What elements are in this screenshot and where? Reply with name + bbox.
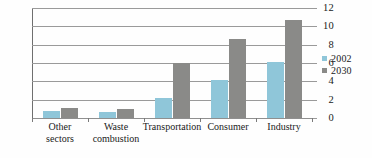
bar-group <box>144 8 200 118</box>
bar-2002 <box>211 80 228 118</box>
legend: 2002 2030 <box>322 53 352 77</box>
y-axis-tick-label: 10 <box>323 21 334 32</box>
bar-2002 <box>43 111 60 118</box>
y-axis-tick-mark <box>312 26 317 27</box>
y-axis-tick-mark <box>312 45 317 46</box>
legend-item-2002: 2002 <box>322 53 352 64</box>
bar-2030 <box>61 108 78 118</box>
bar-2030 <box>285 20 302 118</box>
legend-label-2030: 2030 <box>331 66 352 76</box>
bar-group <box>88 8 144 118</box>
bar-2030 <box>173 63 190 118</box>
bar-2002 <box>155 98 172 118</box>
bar-2002 <box>99 112 116 118</box>
y-axis-tick-mark <box>312 8 317 9</box>
x-axis-category-label: Industry <box>242 121 326 133</box>
y-axis-tick-label: 2 <box>329 94 334 105</box>
y-axis-tick-mark <box>312 100 317 101</box>
y-axis-tick-label: 0 <box>329 113 334 124</box>
bar-2030 <box>229 39 246 118</box>
y-axis-tick-mark <box>312 81 317 82</box>
y-axis-tick-label: 12 <box>323 3 334 14</box>
bars-layer <box>32 8 312 118</box>
gridline <box>32 118 312 119</box>
legend-label-2002: 2002 <box>331 54 352 64</box>
bar-group <box>32 8 88 118</box>
bar-group <box>200 8 256 118</box>
bar-2030 <box>117 109 134 118</box>
bar-group <box>256 8 312 118</box>
y-axis-tick-label: 8 <box>329 39 334 50</box>
legend-swatch-icon-2030 <box>322 68 327 73</box>
bar-chart: 024681012 Other sectorsWaste combustionT… <box>0 0 372 158</box>
plot-area <box>32 8 312 118</box>
legend-item-2030: 2030 <box>322 65 352 76</box>
y-axis-tick-label: 4 <box>329 76 334 87</box>
legend-swatch-icon-2002 <box>322 56 327 61</box>
bar-2002 <box>267 62 284 118</box>
y-axis-tick-mark <box>312 63 317 64</box>
